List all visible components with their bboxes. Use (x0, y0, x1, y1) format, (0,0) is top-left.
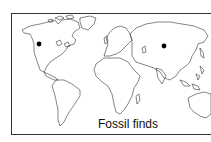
fossil-marker-icon (162, 44, 167, 49)
fossil-marker-icon (37, 42, 42, 47)
map-caption: Fossil finds (98, 117, 158, 131)
